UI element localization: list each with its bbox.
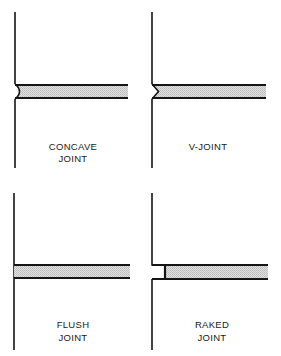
label-flush-line1: FLUSH xyxy=(57,319,90,330)
panel-v-joint: V-JOINT xyxy=(152,12,266,168)
mortar-fill xyxy=(14,265,130,278)
panel-concave-joint: CONCAVE JOINT xyxy=(15,12,128,168)
label-raked-line2: JOINT xyxy=(198,332,227,343)
mortar-fill xyxy=(152,85,266,98)
panel-flush-joint: FLUSH JOINT xyxy=(14,193,130,350)
label-v-joint: V-JOINT xyxy=(189,141,228,152)
label-raked-line1: RAKED xyxy=(195,319,229,330)
label-concave-line2: JOINT xyxy=(59,153,88,164)
brick-face-line xyxy=(152,193,165,350)
label-concave-line1: CONCAVE xyxy=(49,141,97,152)
label-flush-line2: JOINT xyxy=(59,332,88,343)
mortar-fill xyxy=(165,265,268,279)
panel-raked-joint: RAKED JOINT xyxy=(152,193,268,350)
joint-diagram: CONCAVE JOINT V-JOINT FLUSH JOINT RAKED … xyxy=(0,0,281,356)
mortar-fill xyxy=(15,85,128,98)
